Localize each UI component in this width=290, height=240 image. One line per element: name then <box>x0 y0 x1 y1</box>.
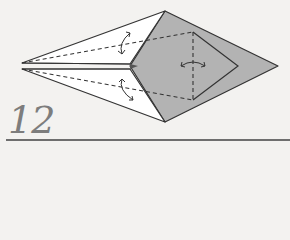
step-divider <box>6 139 290 141</box>
step-number: 12 <box>8 101 54 139</box>
